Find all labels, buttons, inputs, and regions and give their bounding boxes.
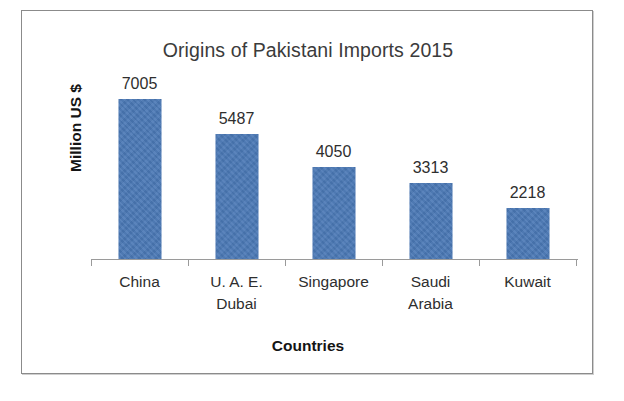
bar-value-label: 5487 xyxy=(219,110,255,128)
bar-value-label: 7005 xyxy=(122,75,158,93)
axis-tick xyxy=(188,259,189,266)
chart-title: Origins of Pakistani Imports 2015 xyxy=(22,39,594,62)
category-label-line: U. A. E. xyxy=(188,271,285,293)
axis-tick xyxy=(576,259,577,266)
category-label: SaudiArabia xyxy=(382,271,479,315)
axis-tick xyxy=(285,259,286,266)
x-axis-title: Countries xyxy=(22,337,594,355)
bar-column: 5487 xyxy=(188,81,285,259)
bar-column: 3313 xyxy=(382,81,479,259)
axis-tick xyxy=(479,259,480,266)
category-label-line: Singapore xyxy=(285,271,382,293)
category-label-line: China xyxy=(91,271,188,293)
bar-wrapper: 5487 xyxy=(215,81,258,259)
category-label-line: Arabia xyxy=(382,293,479,315)
chart-frame: Origins of Pakistani Imports 2015 Millio… xyxy=(21,10,593,374)
category-label-line: Dubai xyxy=(188,293,285,315)
axis-tick xyxy=(382,259,383,266)
category-labels: ChinaU. A. E.DubaiSingaporeSaudiArabiaKu… xyxy=(91,271,576,331)
x-axis-ticks xyxy=(91,259,576,266)
bar[interactable] xyxy=(409,183,452,259)
bar-value-label: 2218 xyxy=(510,184,546,202)
bar-column: 7005 xyxy=(91,81,188,259)
bar[interactable] xyxy=(506,208,549,259)
category-label: China xyxy=(91,271,188,293)
bar-column: 4050 xyxy=(285,81,382,259)
bar[interactable] xyxy=(312,167,355,259)
figure-page: Origins of Pakistani Imports 2015 Millio… xyxy=(0,0,624,401)
bar-wrapper: 7005 xyxy=(118,81,161,259)
axis-tick xyxy=(91,259,92,266)
category-label-line: Kuwait xyxy=(479,271,576,293)
category-label: U. A. E.Dubai xyxy=(188,271,285,315)
bar-value-label: 4050 xyxy=(316,143,352,161)
y-axis-title: Million US $ xyxy=(67,68,85,188)
bar[interactable] xyxy=(118,99,161,259)
bar-value-label: 3313 xyxy=(413,159,449,177)
plot-area: 70055487405033132218 xyxy=(91,81,576,259)
category-label: Kuwait xyxy=(479,271,576,293)
category-label: Singapore xyxy=(285,271,382,293)
bar[interactable] xyxy=(215,134,258,259)
bar-column: 2218 xyxy=(479,81,576,259)
bar-wrapper: 3313 xyxy=(409,81,452,259)
bar-wrapper: 4050 xyxy=(312,81,355,259)
category-label-line: Saudi xyxy=(382,271,479,293)
bar-wrapper: 2218 xyxy=(506,81,549,259)
